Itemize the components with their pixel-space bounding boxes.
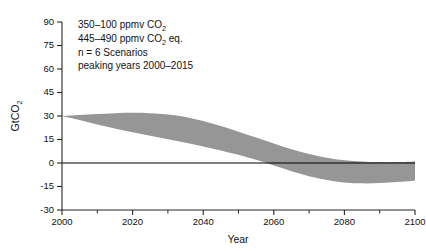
y-tick-label: 75 — [43, 39, 54, 50]
y-axis-title-subscript: 2 — [15, 101, 24, 105]
y-axis-title: GtCO2 — [9, 101, 24, 132]
x-tick-label: 2060 — [263, 216, 284, 227]
x-axis-title: Year — [227, 233, 249, 245]
chart-figure: -30-150153045607590 20002020204020602080… — [0, 0, 426, 251]
y-tick-label: 90 — [43, 16, 54, 27]
annotation-text: 445–490 ppmv CO — [78, 33, 162, 44]
x-tick-label: 2040 — [193, 216, 214, 227]
x-tick-label: 2100 — [404, 216, 425, 227]
scenario-range-band — [62, 113, 415, 184]
annotation-line-4: peaking years 2000–2015 — [78, 60, 194, 71]
annotation-subscript: 2 — [162, 24, 166, 33]
annotation-text: peaking years 2000–2015 — [78, 60, 194, 71]
y-tick-label: 30 — [43, 110, 54, 121]
x-tick-label: 2080 — [334, 216, 355, 227]
annotation-text: n = 6 Scenarios — [78, 47, 148, 58]
y-tick-label: 60 — [43, 63, 54, 74]
y-tick-label: -15 — [40, 180, 54, 191]
x-tick-label: 2000 — [51, 216, 72, 227]
annotation-text-tail: eq. — [166, 33, 183, 44]
y-tick-label: 15 — [43, 133, 54, 144]
y-tick-label: 0 — [49, 157, 54, 168]
emissions-scenario-band-chart: -30-150153045607590 20002020204020602080… — [0, 0, 426, 251]
annotation-line-3: n = 6 Scenarios — [78, 47, 148, 58]
scenario-note-annotation: 350–100 ppmv CO2445–490 ppmv CO2 eq.n = … — [78, 19, 194, 71]
annotation-text: 350–100 ppmv CO — [78, 19, 162, 30]
y-axis-ticks: -30-150153045607590 — [40, 16, 62, 215]
x-axis-ticks: 200020202040206020802100 — [51, 210, 425, 227]
x-tick-label: 2020 — [122, 216, 143, 227]
annotation-line-1: 350–100 ppmv CO2 — [78, 19, 166, 33]
annotation-line-2: 445–490 ppmv CO2 eq. — [78, 33, 183, 47]
y-tick-label: -30 — [40, 204, 54, 215]
y-tick-label: 45 — [43, 86, 54, 97]
y-axis-title-main: GtCO — [9, 105, 21, 132]
